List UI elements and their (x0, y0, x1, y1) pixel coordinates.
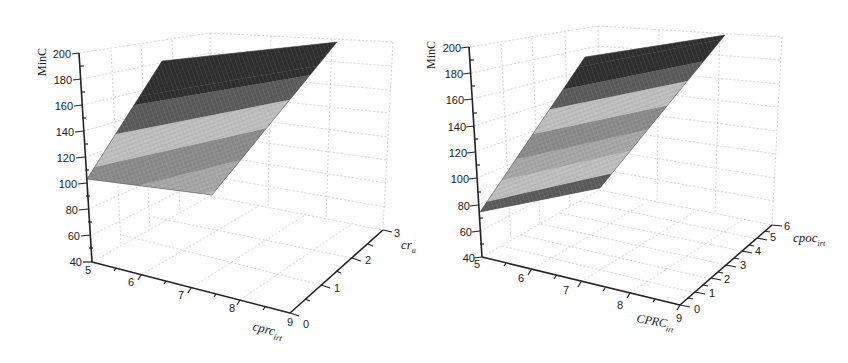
y-tick-1: 1 (334, 282, 340, 294)
y-tick-6: 6 (784, 220, 790, 232)
z-tick-80: 80 (66, 204, 78, 216)
z-tick-120: 120 (449, 147, 467, 159)
z-tick-60: 60 (460, 226, 472, 238)
x-tick-9: 9 (287, 316, 293, 328)
x-tick-5: 5 (85, 264, 91, 276)
y-tick-2: 2 (365, 254, 371, 266)
right-x-axis-label: CPRCirt (635, 311, 676, 335)
y-tick-4: 4 (755, 245, 761, 257)
x-tick-8: 8 (617, 299, 623, 311)
z-tick-160: 160 (55, 100, 73, 112)
z-tick-100: 100 (451, 173, 469, 185)
left-y-axis-label: cru (401, 237, 416, 255)
z-tick-80: 80 (458, 200, 470, 212)
y-tick-5: 5 (770, 231, 776, 243)
x-tick-6: 6 (128, 276, 134, 288)
z-tick-200: 200 (53, 48, 71, 60)
figure-canvas: 200 180 160 140 120 100 80 60 40 MinC 5 … (0, 0, 848, 363)
y-tick-3: 3 (394, 227, 400, 239)
chart-left: 200 180 160 140 120 100 80 60 40 MinC 5 … (35, 20, 416, 343)
right-y-ticks (680, 225, 782, 307)
x-tick-9: 9 (676, 312, 682, 324)
y-tick-3: 3 (740, 259, 746, 271)
z-tick-60: 60 (68, 230, 80, 242)
left-surface (60, 20, 380, 300)
left-y-tick-labels: 0 1 2 3 (303, 227, 400, 330)
z-tick-120: 120 (57, 152, 75, 164)
z-tick-180: 180 (54, 74, 72, 86)
right-x-ticks (504, 263, 680, 310)
z-tick-140: 140 (448, 121, 466, 133)
left-x-axis (92, 262, 290, 313)
x-tick-8: 8 (229, 302, 235, 314)
z-tick-40: 40 (70, 256, 82, 268)
z-tick-140: 140 (56, 126, 74, 138)
right-y-tick-labels: 0 1 2 3 4 5 6 (694, 220, 790, 315)
left-x-tick-labels: 5 6 7 8 9 (85, 264, 293, 328)
right-z-axis-label: MinC (424, 41, 438, 69)
right-x-axis (482, 257, 680, 305)
y-tick-1: 1 (709, 287, 715, 299)
y-tick-0: 0 (303, 318, 309, 330)
x-tick-7: 7 (178, 289, 184, 301)
left-x-axis-label: cprcirt (251, 318, 286, 343)
y-tick-2: 2 (724, 273, 730, 285)
z-tick-200: 200 (443, 42, 461, 54)
right-y-axis-label: cpocirt (793, 230, 826, 248)
z-tick-100: 100 (59, 178, 77, 190)
y-tick-0: 0 (694, 303, 700, 315)
left-y-ticks (290, 230, 392, 316)
x-tick-6: 6 (518, 272, 524, 284)
left-z-axis-label: MinC (35, 48, 49, 76)
x-tick-7: 7 (563, 284, 569, 296)
x-tick-5: 5 (474, 258, 480, 270)
z-tick-160: 160 (446, 94, 464, 106)
z-tick-180: 180 (445, 68, 463, 80)
chart-right: 200 180 160 140 120 100 80 60 40 MinC 5 … (424, 20, 826, 335)
